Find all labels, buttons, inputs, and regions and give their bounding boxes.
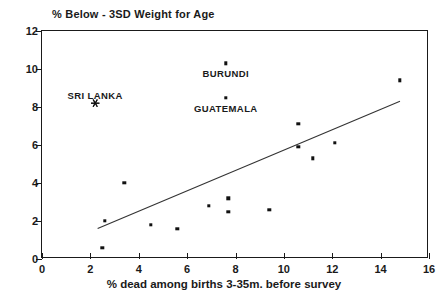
x-tick-label: 0 <box>39 263 45 275</box>
data-point <box>149 223 152 226</box>
x-tick-label: 12 <box>326 263 338 275</box>
x-tick-label: 6 <box>184 263 190 275</box>
point-annotation-burundi: BURUNDI <box>203 68 250 79</box>
data-point <box>224 62 227 65</box>
data-point <box>333 141 336 144</box>
trend-line <box>98 101 400 228</box>
x-tick-mark <box>42 253 43 259</box>
data-point <box>297 122 300 125</box>
data-point <box>268 208 271 211</box>
data-point <box>311 157 314 160</box>
data-point <box>123 181 126 184</box>
data-point <box>224 96 227 99</box>
x-tick-mark <box>429 253 430 259</box>
data-point <box>297 145 300 148</box>
data-point <box>101 246 104 249</box>
y-tick-label: 2 <box>32 215 38 227</box>
x-tick-mark <box>284 253 285 259</box>
data-point <box>227 196 230 199</box>
data-point <box>103 219 106 222</box>
scatter-chart-figure: % Below - 3SD Weight for Age 024681012 0… <box>0 0 448 308</box>
x-axis-label: % dead among births 3-35m. before survey <box>0 278 448 290</box>
y-tick-label: 12 <box>26 25 38 37</box>
x-tick-mark <box>90 253 91 259</box>
x-tick-label: 16 <box>423 263 435 275</box>
point-annotation-sri-lanka: SRI LANKA <box>68 90 123 101</box>
plot-overlay <box>42 31 427 257</box>
x-tick-mark <box>381 253 382 259</box>
x-tick-label: 8 <box>232 263 238 275</box>
x-tick-mark <box>187 253 188 259</box>
y-tick-label: 0 <box>32 253 38 265</box>
plot-area: 024681012 0246810121416 BURUNDIGUATEMALA… <box>41 30 428 258</box>
x-tick-label: 14 <box>375 263 387 275</box>
data-point <box>207 204 210 207</box>
x-tick-mark <box>139 253 140 259</box>
y-tick-label: 6 <box>32 139 38 151</box>
data-point <box>398 79 401 82</box>
x-tick-mark <box>236 253 237 259</box>
data-point <box>176 227 179 230</box>
x-tick-label: 2 <box>87 263 93 275</box>
y-tick-label: 8 <box>32 101 38 113</box>
y-tick-label: 4 <box>32 177 38 189</box>
y-tick-label: 10 <box>26 63 38 75</box>
data-point <box>227 210 230 213</box>
x-tick-mark <box>332 253 333 259</box>
point-annotation-guatemala: GUATEMALA <box>194 103 258 114</box>
x-tick-label: 4 <box>136 263 142 275</box>
x-tick-label: 10 <box>278 263 290 275</box>
chart-title: % Below - 3SD Weight for Age <box>52 8 215 20</box>
